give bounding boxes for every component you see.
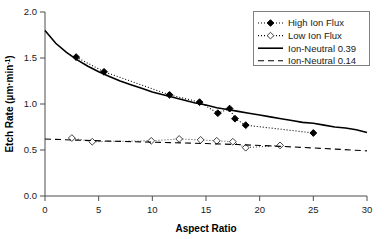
y-axis-title-tail: ) [4,55,15,58]
y-tick-label: 0.5 [24,144,37,155]
y-tick-label: 2.0 [24,6,37,17]
x-tick-label: 15 [201,204,212,215]
y-axis-title-main: Etch Rate (µm·min [4,65,15,153]
x-tick-label: 20 [254,204,265,215]
etch-rate-vs-aspect-ratio-chart: 0.00.51.01.52.0 051015202530 Aspect Rati… [0,0,384,239]
x-tick-label: 10 [147,204,158,215]
y-tick-label: 1.5 [24,52,37,63]
svg-text:Etch Rate (µm·min-1): Etch Rate (µm·min-1) [4,55,16,152]
chart-figure: 0.00.51.01.52.0 051015202530 Aspect Rati… [0,0,384,239]
y-axis-title: Etch Rate (µm·min-1) [4,55,16,152]
y-tick-label: 1.0 [24,98,37,109]
x-tick-label: 5 [96,204,101,215]
x-tick-label: 30 [362,204,373,215]
x-axis-title: Aspect Ratio [175,223,236,234]
legend-label: High Ion Flux [288,17,344,28]
chart-legend: High Ion FluxLow Ion FluxIon-Neutral 0.3… [254,12,370,67]
legend-label: Ion-Neutral 0.14 [288,55,356,66]
x-tick-label: 0 [42,204,47,215]
legend-label: Low Ion Flux [288,30,342,41]
y-tick-label: 0.0 [24,190,37,201]
legend-label: Ion-Neutral 0.39 [288,43,356,54]
x-tick-label: 25 [308,204,319,215]
